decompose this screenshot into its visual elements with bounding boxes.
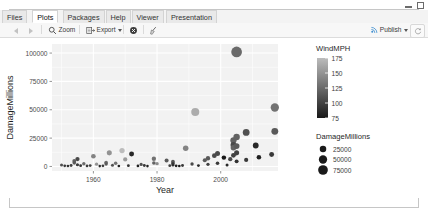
x-tick-label: 1980	[150, 176, 165, 183]
data-point	[206, 156, 210, 160]
legend-size-label: 75000	[333, 167, 352, 174]
y-tick-label: 100000	[25, 50, 47, 57]
y-tick-label: 0	[44, 163, 48, 170]
tab-label: Plots	[37, 13, 53, 22]
data-point	[70, 164, 73, 167]
data-point	[257, 155, 262, 160]
data-point	[95, 163, 98, 166]
back-arrow-icon	[13, 26, 21, 34]
remove-plot-button[interactable]	[129, 24, 138, 36]
broom-clear-icon	[149, 26, 158, 35]
chevron-down-icon	[118, 29, 122, 32]
data-point	[165, 159, 169, 163]
legend-title-windmph: WindMPH	[316, 44, 350, 53]
colorbar-tick-label: 150	[332, 70, 343, 77]
data-point	[91, 154, 96, 159]
forward-button[interactable]	[26, 24, 34, 36]
data-point	[215, 151, 220, 156]
data-point	[89, 164, 92, 167]
data-point	[216, 162, 220, 166]
data-point	[243, 129, 250, 136]
y-axis-title: DamageMillions	[5, 75, 15, 140]
tab-label: Presentation	[171, 13, 212, 22]
zoom-button-label: Zoom	[59, 24, 76, 36]
tab-files[interactable]: Files	[2, 10, 27, 23]
data-point	[190, 162, 193, 165]
plots-toolbar: Zoom Export Publ	[0, 23, 428, 38]
data-point	[119, 148, 124, 153]
tab-viewer[interactable]: Viewer	[132, 10, 164, 23]
export-icon	[86, 26, 95, 35]
data-point	[155, 162, 158, 165]
x-axis-title: Year	[156, 185, 174, 195]
maximize-icon[interactable]	[416, 2, 425, 10]
data-point	[234, 143, 240, 149]
plot-panel	[52, 44, 278, 171]
plot-canvas: 0250005000075000100000196019802000YearDa…	[0, 38, 428, 198]
tab-label: Packages	[68, 13, 100, 22]
export-button-label: Export	[97, 24, 116, 36]
tab-help[interactable]: Help	[106, 10, 131, 23]
colorbar-tick-label: 100	[332, 100, 343, 107]
data-point	[98, 165, 101, 168]
data-point	[114, 162, 118, 166]
data-point	[191, 108, 199, 116]
tab-presentation[interactable]: Presentation	[166, 10, 217, 23]
legend-size-label: 50000	[333, 156, 352, 163]
data-point	[197, 164, 200, 167]
back-button[interactable]	[13, 24, 21, 36]
data-point	[152, 157, 156, 161]
data-point	[271, 103, 279, 111]
magnifier-icon	[48, 26, 57, 35]
data-point	[79, 164, 82, 167]
chevron-down-icon	[404, 29, 408, 32]
legend-title-damagemillions: DamageMillions	[316, 132, 370, 141]
x-tick-label: 2000	[213, 176, 228, 183]
data-point	[82, 162, 85, 165]
export-button[interactable]: Export	[86, 24, 122, 36]
data-point	[123, 157, 127, 161]
data-point	[118, 165, 121, 168]
legend-size-key	[319, 155, 327, 163]
data-point	[233, 134, 239, 140]
zoom-button[interactable]: Zoom	[48, 24, 75, 36]
y-tick-label: 75000	[29, 78, 48, 85]
window-controls	[404, 2, 425, 10]
publish-button[interactable]: Publish	[369, 24, 408, 36]
tab-label: Help	[111, 13, 126, 22]
data-point	[222, 155, 226, 159]
data-point	[234, 150, 239, 155]
data-point	[244, 158, 248, 162]
data-point	[253, 143, 259, 149]
data-point	[102, 164, 105, 167]
refresh-icon	[414, 27, 422, 35]
legend-size-label: 25000	[333, 146, 352, 153]
publish-button-label: Publish	[380, 24, 402, 36]
data-point	[269, 152, 274, 157]
y-tick-label: 25000	[29, 135, 48, 142]
data-point	[86, 165, 89, 168]
data-point	[63, 164, 66, 167]
data-point	[104, 162, 107, 165]
tab-label: Files	[7, 13, 22, 22]
data-point	[146, 165, 149, 168]
data-point	[226, 164, 229, 167]
tab-packages[interactable]: Packages	[63, 10, 105, 23]
forward-arrow-icon	[26, 26, 34, 34]
data-point	[168, 164, 171, 167]
data-point	[107, 150, 112, 155]
data-point	[111, 164, 114, 167]
data-point	[231, 47, 242, 58]
data-point	[228, 157, 232, 161]
data-point	[143, 164, 146, 167]
data-point	[181, 164, 184, 167]
data-point	[183, 146, 189, 152]
data-point	[127, 164, 130, 167]
refresh-button[interactable]	[410, 24, 425, 38]
minimize-icon[interactable]	[404, 2, 413, 10]
x-tick-label: 1960	[86, 176, 101, 183]
data-point	[137, 165, 140, 168]
data-point	[235, 159, 239, 163]
tab-plots[interactable]: Plots	[32, 10, 58, 23]
clear-all-plots-button[interactable]	[149, 24, 158, 36]
